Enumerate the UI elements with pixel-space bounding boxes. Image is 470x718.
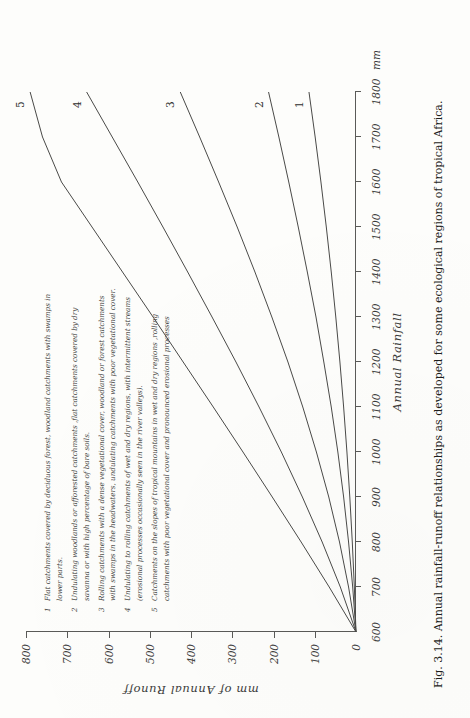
- x-axis-title: Annual Rainfall: [390, 312, 404, 411]
- curve-2: [269, 92, 356, 632]
- x-axis-tick: [355, 406, 361, 407]
- figure-caption: Fig. 3.14. Annual rainfall-runoff relati…: [432, 28, 445, 688]
- y-axis-tick: [26, 632, 27, 638]
- y-axis-tick: [191, 632, 192, 638]
- y-axis-tick-label: 400: [185, 644, 197, 664]
- x-axis-tick: [355, 271, 361, 272]
- x-axis-tick-label: 1500: [370, 214, 382, 241]
- y-axis-tick: [232, 632, 233, 638]
- x-axis-tick: [355, 451, 361, 452]
- curve-group: [26, 92, 356, 632]
- x-axis-tick: [355, 361, 361, 362]
- x-axis-tick-label: 1400: [370, 259, 382, 286]
- x-axis-tick-label: 1700: [370, 124, 382, 151]
- x-axis-unit: mm: [370, 50, 382, 70]
- y-axis-tick: [109, 632, 110, 638]
- x-axis-tick: [355, 316, 361, 317]
- y-axis-tick-label: 700: [61, 644, 73, 664]
- x-axis-tick-label: 900: [370, 487, 382, 507]
- y-axis-tick-label: 600: [103, 644, 115, 664]
- x-axis-tick-label: 600: [370, 622, 382, 642]
- y-axis-tick-label: 800: [20, 644, 32, 664]
- curve-label-2: 2: [253, 101, 265, 108]
- plot-area: mm Annual Rainfall mm of Annual Runoff 6…: [26, 92, 356, 632]
- x-axis-tick: [355, 91, 361, 92]
- x-axis-tick-label: 1200: [370, 349, 382, 376]
- x-axis-tick-label: 1600: [370, 169, 382, 196]
- y-axis-tick-label: 300: [226, 644, 238, 664]
- x-axis-tick-label: 700: [370, 577, 382, 597]
- y-axis-tick-label: 200: [268, 644, 280, 664]
- y-axis-tick-label: 500: [144, 644, 156, 664]
- curve-label-4: 4: [71, 101, 83, 108]
- y-axis-title: mm of Annual Runoff: [123, 683, 258, 697]
- x-axis-tick: [355, 226, 361, 227]
- y-axis-tick-label: 0: [350, 644, 362, 651]
- y-axis-tick-label: 100: [309, 644, 321, 664]
- y-axis-tick: [315, 632, 316, 638]
- curve-4: [87, 92, 356, 632]
- scanned-sheet: 1 Flat catchments covered by deciduous f…: [0, 0, 470, 718]
- x-axis-tick: [355, 136, 361, 137]
- curve-label-5: 5: [14, 101, 26, 108]
- x-axis-tick-label: 800: [370, 532, 382, 552]
- y-axis-tick: [150, 632, 151, 638]
- curve-label-1: 1: [293, 101, 305, 108]
- x-axis-tick: [355, 496, 361, 497]
- y-axis-tick: [67, 632, 68, 638]
- x-axis-tick: [355, 541, 361, 542]
- y-axis-tick: [274, 632, 275, 638]
- x-axis-tick-label: 1100: [370, 394, 382, 421]
- x-axis-tick: [355, 586, 361, 587]
- curve-label-3: 3: [164, 101, 176, 108]
- x-axis-tick: [355, 181, 361, 182]
- x-axis-tick-label: 1800: [370, 79, 382, 106]
- x-axis-tick-label: 1300: [370, 304, 382, 331]
- figure-page: 1 Flat catchments covered by deciduous f…: [0, 0, 470, 718]
- x-axis-tick-label: 1000: [370, 439, 382, 466]
- curve-3: [180, 92, 356, 632]
- curve-5: [30, 92, 356, 632]
